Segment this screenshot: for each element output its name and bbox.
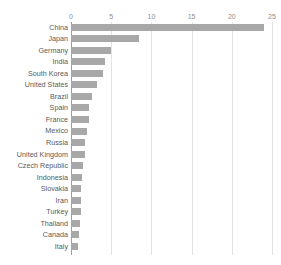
bar-track — [71, 24, 264, 31]
bar[interactable] — [71, 104, 89, 111]
bar-row[interactable]: Canada — [0, 230, 281, 242]
bar[interactable] — [71, 81, 97, 88]
bar-track — [71, 93, 92, 100]
bar-row[interactable]: Mexico — [0, 126, 281, 138]
bar-track — [71, 104, 89, 111]
bar-row[interactable]: China — [0, 22, 281, 34]
bar-track — [71, 128, 87, 135]
category-label: Indonesia — [37, 173, 68, 182]
bar-track — [71, 47, 111, 54]
bar-track — [71, 185, 81, 192]
bar[interactable] — [71, 231, 79, 238]
bar-row[interactable]: United Kingdom — [0, 149, 281, 161]
category-label: United Kingdom — [17, 150, 68, 159]
bar-row[interactable]: Iran — [0, 195, 281, 207]
bar-row[interactable]: Indonesia — [0, 172, 281, 184]
bar[interactable] — [71, 116, 89, 123]
bar[interactable] — [71, 162, 83, 169]
bar-row[interactable]: Italy — [0, 241, 281, 253]
bar-track — [71, 116, 89, 123]
x-tick-label: 0 — [69, 13, 73, 21]
bar-row[interactable]: Japan — [0, 34, 281, 46]
bar[interactable] — [71, 151, 85, 158]
bar-row[interactable]: Spain — [0, 103, 281, 115]
bar-track — [71, 70, 103, 77]
bar[interactable] — [71, 220, 80, 227]
x-tick-label: 5 — [109, 13, 113, 21]
bar[interactable] — [71, 174, 82, 181]
category-label: Italy — [55, 242, 68, 251]
bar-track — [71, 139, 85, 146]
x-tick-label: 20 — [228, 13, 236, 21]
bar-chart: 0510152025 ChinaJapanGermanyIndiaSouth K… — [0, 0, 281, 265]
bar-track — [71, 35, 139, 42]
bar-row[interactable]: Slovakia — [0, 184, 281, 196]
x-tick-label: 25 — [268, 13, 276, 21]
category-label: Canada — [43, 230, 68, 239]
bar-track — [71, 81, 97, 88]
bar[interactable] — [71, 139, 85, 146]
bar[interactable] — [71, 58, 105, 65]
bar-row[interactable]: Czech Republic — [0, 161, 281, 173]
bar-track — [71, 243, 78, 250]
bar-track — [71, 231, 79, 238]
bar-rows: ChinaJapanGermanyIndiaSouth KoreaUnited … — [0, 22, 281, 253]
bar[interactable] — [71, 47, 111, 54]
bar-row[interactable]: United States — [0, 80, 281, 92]
bar[interactable] — [71, 128, 87, 135]
category-label: United States — [25, 80, 68, 89]
bar-row[interactable]: Germany — [0, 45, 281, 57]
bar-track — [71, 197, 81, 204]
bar-row[interactable]: Russia — [0, 137, 281, 149]
category-label: Russia — [46, 138, 68, 147]
bar-track — [71, 151, 85, 158]
plot-area: 0510152025 ChinaJapanGermanyIndiaSouth K… — [0, 0, 281, 265]
category-label: Iran — [56, 196, 68, 205]
bar-row[interactable]: South Korea — [0, 68, 281, 80]
bar-track — [71, 220, 80, 227]
category-label: Mexico — [45, 126, 68, 135]
category-label: Spain — [50, 103, 68, 112]
bar-row[interactable]: Thailand — [0, 218, 281, 230]
bar[interactable] — [71, 70, 103, 77]
category-label: China — [49, 23, 68, 32]
bar[interactable] — [71, 197, 81, 204]
bar[interactable] — [71, 24, 264, 31]
bar-track — [71, 208, 81, 215]
bar[interactable] — [71, 243, 78, 250]
x-tick-label: 10 — [147, 13, 155, 21]
category-label: Czech Republic — [18, 161, 68, 170]
bar[interactable] — [71, 185, 81, 192]
x-tick-label: 15 — [188, 13, 196, 21]
category-label: Japan — [48, 34, 68, 43]
bar-track — [71, 162, 83, 169]
bar[interactable] — [71, 208, 81, 215]
bar-track — [71, 174, 82, 181]
category-label: Thailand — [40, 219, 68, 228]
bar-track — [71, 58, 105, 65]
bar-row[interactable]: Brazil — [0, 91, 281, 103]
category-label: Slovakia — [41, 184, 68, 193]
bar[interactable] — [71, 93, 92, 100]
bar-row[interactable]: Turkey — [0, 207, 281, 219]
bar[interactable] — [71, 35, 139, 42]
category-label: France — [46, 115, 68, 124]
category-label: Brazil — [50, 92, 68, 101]
bar-row[interactable]: India — [0, 57, 281, 69]
category-label: Germany — [38, 46, 68, 55]
category-label: South Korea — [28, 69, 68, 78]
category-label: Turkey — [46, 207, 68, 216]
bar-row[interactable]: France — [0, 114, 281, 126]
category-label: India — [52, 57, 68, 66]
